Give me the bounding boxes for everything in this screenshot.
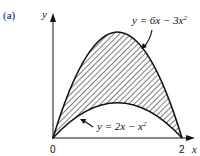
lower-label-pointer [84, 121, 93, 127]
y-axis-arrow-icon [50, 13, 56, 22]
x-tick-0: 0 [50, 145, 56, 155]
panel-label: (a) [3, 10, 15, 21]
upper-label-pointer [144, 30, 152, 47]
upper-curve-label: y = 6x − 3x2 [132, 15, 187, 26]
y-axis-label: y [42, 9, 47, 20]
lower-curve-label: y = 2x − x2 [97, 121, 147, 132]
x-axis-label: x [192, 144, 197, 155]
x-axis-arrow-icon [186, 135, 195, 141]
x-tick-2: 2 [179, 145, 185, 155]
